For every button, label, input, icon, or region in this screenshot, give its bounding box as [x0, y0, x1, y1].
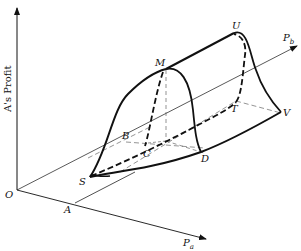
dashed-b-to-c — [126, 142, 205, 148]
surface-ridge-m-u — [166, 33, 234, 69]
point-label-s: S — [79, 176, 86, 187]
surface-bottom-edge — [90, 112, 281, 177]
point-label-t: T — [231, 103, 239, 114]
section-u-to-v — [234, 32, 281, 112]
pa-axis — [17, 190, 206, 239]
pb-axis-label: Pb — [282, 32, 295, 46]
point-label-v: V — [283, 107, 292, 118]
point-label-u: U — [232, 20, 241, 31]
point-label-d: D — [200, 153, 209, 164]
dashed-t-to-u — [234, 34, 245, 102]
point-label-c: C — [143, 148, 151, 159]
dashed-m-to-c — [145, 72, 163, 146]
point-label-b: B — [121, 130, 129, 141]
dashed-s-to-t — [91, 102, 236, 176]
profit-surface-diagram: A's Profit O A S B C M D T U V Pb Pa — [0, 0, 301, 251]
vertical-axis-label: A's Profit — [2, 66, 13, 114]
origin-label: O — [5, 189, 13, 200]
pa-axis-label: Pa — [182, 237, 194, 251]
point-label-m: M — [154, 57, 166, 68]
dashed-c-to-b — [148, 141, 166, 143]
point-label-a: A — [63, 204, 71, 215]
